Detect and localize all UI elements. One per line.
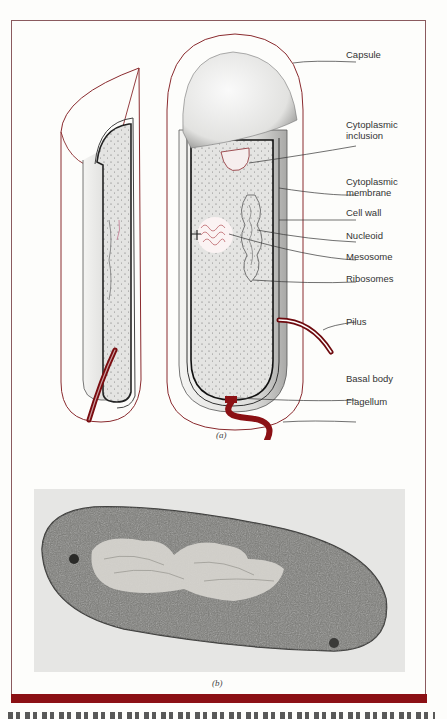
mesosome-shape [197,217,233,253]
body-text-cutoff [0,708,447,719]
label-cytoplasmic-inclusion: Cytoplasmic inclusion [346,119,398,141]
left-cell-cutaway [61,68,141,422]
caption-a: (a) [216,430,227,440]
caption-b: (b) [212,678,223,688]
label-nucleoid: Nucleoid [346,230,383,241]
label-cytoplasmic-membrane: Cytoplasmic membrane [346,176,398,198]
label-basal-body: Basal body [346,373,393,384]
right-cell [167,34,331,440]
figure-bottom-bar [11,694,427,703]
label-capsule: Capsule [346,49,381,60]
label-mesosome: Mesosome [346,251,392,262]
label-pilus: Pilus [346,316,367,327]
label-flagellum: Flagellum [346,396,387,407]
cytoplasm [191,140,273,400]
label-ribosomes: Ribosomes [346,273,394,284]
label-cell-wall: Cell wall [346,207,381,218]
micrograph-image [34,489,405,672]
electron-micrograph [34,489,405,672]
